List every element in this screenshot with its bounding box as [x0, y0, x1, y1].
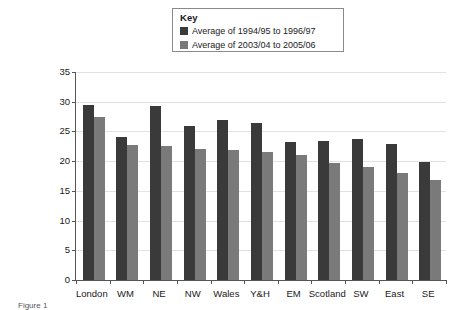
bar-group [346, 72, 380, 280]
bar [386, 144, 397, 280]
bar [228, 150, 239, 280]
bar [430, 180, 441, 280]
x-tick-mark [311, 280, 312, 284]
x-tick-mark [244, 280, 245, 284]
x-tick-mark [412, 280, 413, 284]
y-tick-label: 0 [50, 275, 70, 285]
y-tick-mark [72, 161, 76, 162]
x-tick-label: NW [185, 288, 201, 299]
x-tick-label: Y&H [250, 288, 270, 299]
legend-swatch-series-1 [180, 41, 188, 49]
bar [296, 155, 307, 280]
bar [397, 173, 408, 280]
legend-entry: Average of 1994/95 to 1996/97 [180, 24, 337, 37]
bar [318, 141, 329, 280]
bar-series-layer [77, 72, 446, 280]
x-tick-label: Wales [213, 288, 239, 299]
legend-label-series-0: Average of 1994/95 to 1996/97 [192, 26, 315, 36]
y-tick-label: 20 [50, 156, 70, 166]
x-tick-mark [211, 280, 212, 284]
x-tick-label: SE [422, 288, 435, 299]
x-tick-mark [177, 280, 178, 284]
bar [150, 106, 161, 280]
bar [217, 120, 228, 280]
x-tick-mark [110, 280, 111, 284]
x-tick-mark [76, 280, 77, 284]
chart-legend: Key Average of 1994/95 to 1996/97 Averag… [172, 8, 344, 52]
bar [94, 117, 105, 280]
bar-group [380, 72, 414, 280]
y-tick-label: 25 [50, 126, 70, 136]
x-tick-label: NE [152, 288, 165, 299]
bar [116, 137, 127, 280]
bar [161, 146, 172, 280]
bar [363, 167, 374, 280]
chart-plot-area: 05101520253035 [75, 72, 446, 281]
x-tick-mark [446, 280, 447, 284]
bar [184, 126, 195, 280]
y-tick-mark [72, 250, 76, 251]
bar-group [212, 72, 246, 280]
x-tick-mark [143, 280, 144, 284]
bar-group [245, 72, 279, 280]
y-tick-mark [72, 131, 76, 132]
y-tick-label: 10 [50, 216, 70, 226]
bar [352, 139, 363, 280]
y-tick-label: 30 [50, 97, 70, 107]
y-tick-mark [72, 102, 76, 103]
y-tick-mark [72, 221, 76, 222]
bar [251, 123, 262, 280]
y-tick-label: 15 [50, 186, 70, 196]
x-tick-label: SW [353, 288, 368, 299]
x-tick-label: London [76, 288, 108, 299]
bar-group [144, 72, 178, 280]
bar [195, 149, 206, 280]
bar-group [111, 72, 145, 280]
x-tick-mark [278, 280, 279, 284]
bar-group [77, 72, 111, 280]
bar [127, 145, 138, 280]
x-tick-label: East [385, 288, 404, 299]
x-tick-mark [345, 280, 346, 284]
x-tick-label: EM [287, 288, 301, 299]
bar [262, 152, 273, 280]
bar [285, 142, 296, 280]
bar [329, 163, 340, 280]
legend-entry: Average of 2003/04 to 2005/06 [180, 38, 337, 51]
x-tick-label: WM [117, 288, 134, 299]
x-tick-mark [379, 280, 380, 284]
legend-swatch-series-0 [180, 27, 188, 35]
y-tick-label: 5 [50, 245, 70, 255]
bar-group [312, 72, 346, 280]
y-tick-mark [72, 191, 76, 192]
y-tick-mark [72, 72, 76, 73]
bar-group [279, 72, 313, 280]
legend-title: Key [180, 12, 337, 23]
bar-group [413, 72, 447, 280]
y-tick-label: 35 [50, 67, 70, 77]
bar [419, 162, 430, 280]
legend-label-series-1: Average of 2003/04 to 2005/06 [192, 40, 315, 50]
bar [83, 105, 94, 280]
figure-caption: Figure 1 [18, 301, 47, 310]
bar-group [178, 72, 212, 280]
x-tick-label: Scotland [309, 288, 346, 299]
